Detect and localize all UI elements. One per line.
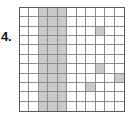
grid-cell-empty xyxy=(86,64,95,73)
grid-cell-empty xyxy=(86,8,95,17)
grid-cell-empty xyxy=(29,8,38,17)
grid-cell-empty xyxy=(86,102,95,111)
grid-cell-empty xyxy=(96,45,105,54)
item-number-label: 4. xyxy=(1,30,11,43)
grid-cell-empty xyxy=(96,74,105,83)
grid-cell-empty xyxy=(96,17,105,26)
grid-cell-empty xyxy=(20,27,29,36)
grid-cell-shaded xyxy=(58,17,67,26)
grid-cell-shaded xyxy=(115,74,124,83)
grid-cell-shaded xyxy=(39,27,48,36)
grid-cell-empty xyxy=(20,8,29,17)
grid-cell-empty xyxy=(77,64,86,73)
grid-cell-empty xyxy=(67,8,76,17)
grid-cell-empty xyxy=(105,8,114,17)
grid-cell-empty xyxy=(115,36,124,45)
grid-cell-empty xyxy=(96,55,105,64)
grid-cell-empty xyxy=(77,36,86,45)
grid-cell-empty xyxy=(77,102,86,111)
grid-cell-empty xyxy=(29,36,38,45)
grid-cell-shaded xyxy=(58,102,67,111)
grid-cell-empty xyxy=(105,102,114,111)
grid-cell-empty xyxy=(115,8,124,17)
grid-cell-shaded xyxy=(96,64,105,73)
grid-cell-empty xyxy=(105,64,114,73)
grid-cell-empty xyxy=(29,55,38,64)
grid-cell-empty xyxy=(29,83,38,92)
grid-cell-empty xyxy=(86,92,95,101)
grid-cell-empty xyxy=(77,83,86,92)
grid-cell-empty xyxy=(115,92,124,101)
grid-cell-empty xyxy=(96,102,105,111)
grid-cell-empty xyxy=(115,27,124,36)
grid-cell-empty xyxy=(67,27,76,36)
grid-cell-empty xyxy=(20,55,29,64)
shaded-grid xyxy=(20,8,124,111)
grid-cell-empty xyxy=(105,74,114,83)
grid-cell-empty xyxy=(29,45,38,54)
grid-cell-empty xyxy=(20,64,29,73)
grid-cell-shaded xyxy=(48,45,57,54)
grid-cell-shaded xyxy=(39,45,48,54)
grid-cell-empty xyxy=(67,55,76,64)
grid-cell-empty xyxy=(77,92,86,101)
grid-cell-empty xyxy=(29,102,38,111)
grid-cell-empty xyxy=(29,17,38,26)
grid-cell-empty xyxy=(105,36,114,45)
grid-cell-empty xyxy=(115,102,124,111)
grid-cell-empty xyxy=(67,17,76,26)
grid-cell-shaded xyxy=(48,102,57,111)
grid-cell-shaded xyxy=(58,45,67,54)
grid-cell-empty xyxy=(105,17,114,26)
grid-cell-empty xyxy=(105,83,114,92)
grid-cell-shaded xyxy=(48,36,57,45)
grid-cell-shaded xyxy=(48,83,57,92)
grid-cell-shaded xyxy=(58,55,67,64)
grid-cell-empty xyxy=(20,92,29,101)
grid-cell-shaded xyxy=(39,8,48,17)
grid-cell-empty xyxy=(67,102,76,111)
grid-cell-shaded xyxy=(58,64,67,73)
grid-cell-shaded xyxy=(58,8,67,17)
grid-cell-empty xyxy=(96,83,105,92)
grid-cell-empty xyxy=(77,27,86,36)
grid-cell-shaded xyxy=(48,17,57,26)
grid-cell-empty xyxy=(115,64,124,73)
grid-cell-shaded xyxy=(39,55,48,64)
grid-cell-empty xyxy=(115,45,124,54)
grid-cell-empty xyxy=(77,8,86,17)
grid-cell-shaded xyxy=(39,64,48,73)
grid-cell-empty xyxy=(77,74,86,83)
grid-cell-shaded xyxy=(48,55,57,64)
grid-cell-empty xyxy=(20,36,29,45)
grid-cell-shaded xyxy=(58,74,67,83)
grid-cell-shaded xyxy=(48,8,57,17)
grid-cell-shaded xyxy=(39,74,48,83)
grid-cell-empty xyxy=(86,36,95,45)
grid-cell-empty xyxy=(86,74,95,83)
grid-cell-empty xyxy=(67,45,76,54)
grid-cell-empty xyxy=(105,27,114,36)
grid-cell-empty xyxy=(105,45,114,54)
grid-cell-shaded xyxy=(39,36,48,45)
figure-container: 4. xyxy=(0,0,129,118)
grid-outer-border xyxy=(19,7,125,112)
grid-cell-empty xyxy=(29,92,38,101)
grid-cell-empty xyxy=(67,92,76,101)
grid-cell-empty xyxy=(67,74,76,83)
grid-cell-empty xyxy=(86,17,95,26)
grid-cell-empty xyxy=(115,83,124,92)
grid-cell-empty xyxy=(77,45,86,54)
grid-cell-empty xyxy=(77,17,86,26)
grid-cell-shaded xyxy=(86,83,95,92)
grid-cell-empty xyxy=(29,27,38,36)
grid-cell-shaded xyxy=(58,27,67,36)
grid-cell-empty xyxy=(86,55,95,64)
grid-cell-shaded xyxy=(48,64,57,73)
grid-cell-empty xyxy=(77,55,86,64)
grid-cell-empty xyxy=(67,36,76,45)
grid-cell-shaded xyxy=(48,92,57,101)
grid-cell-shaded xyxy=(96,27,105,36)
grid-cell-empty xyxy=(20,102,29,111)
grid-cell-empty xyxy=(67,83,76,92)
